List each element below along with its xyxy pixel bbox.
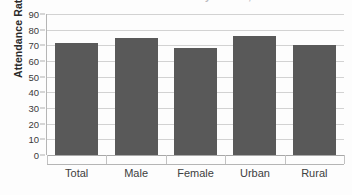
y-axis-tick-mark <box>40 76 45 77</box>
y-axis-tick-label: 10 <box>28 134 39 145</box>
bar-total[interactable] <box>55 43 98 155</box>
x-axis-label-male: Male <box>106 167 165 179</box>
y-axis-tick-label: 70 <box>28 40 39 51</box>
y-axis-tick-label: 60 <box>28 56 39 67</box>
chart-title-clipped: Attendance Rate in Primary School, 2010 <box>0 0 352 2</box>
x-axis-label-rural: Rural <box>285 167 344 179</box>
bar-rural[interactable] <box>293 45 336 155</box>
y-axis-tick-mark <box>40 123 45 124</box>
bar-slot <box>225 14 284 155</box>
bar-slot <box>285 14 344 155</box>
bar-female[interactable] <box>174 48 217 155</box>
category-tick-mark <box>47 155 48 164</box>
y-axis-tick-label: 90 <box>28 9 39 20</box>
y-axis-tick-label: 20 <box>28 118 39 129</box>
x-axis-label-female: Female <box>166 167 225 179</box>
bar-slot <box>47 14 106 155</box>
y-axis-tick-mark <box>40 29 45 30</box>
bar-chart: Attendance Rate in Primary School, 2010 … <box>0 0 352 195</box>
y-axis-tick-label: 0 <box>34 150 39 161</box>
y-axis-tick-mark <box>40 139 45 140</box>
y-axis-tick-mark <box>40 61 45 62</box>
x-axis-label-urban: Urban <box>225 167 284 179</box>
y-axis-tick-mark <box>40 14 45 15</box>
bar-series <box>47 14 344 155</box>
bar-slot <box>166 14 225 155</box>
x-axis-label-total: Total <box>47 167 106 179</box>
category-tick-mark <box>225 155 226 164</box>
y-axis-tick-label: 30 <box>28 103 39 114</box>
category-tick-mark <box>285 155 286 164</box>
plot-area <box>47 14 344 155</box>
y-axis-tick-mark <box>40 108 45 109</box>
y-axis-tick-labels: 9080706050403020100 <box>0 14 45 155</box>
x-axis-line <box>47 164 344 165</box>
bar-urban[interactable] <box>233 36 276 155</box>
y-axis-tick-label: 80 <box>28 24 39 35</box>
category-tick-mark <box>166 155 167 164</box>
category-tick-marks <box>47 155 344 164</box>
bar-male[interactable] <box>115 38 158 156</box>
y-axis-tick-label: 40 <box>28 87 39 98</box>
y-axis-tick-label: 50 <box>28 71 39 82</box>
bar-slot <box>106 14 165 155</box>
category-tick-mark <box>106 155 107 164</box>
x-axis-category-labels: TotalMaleFemaleUrbanRural <box>47 167 344 179</box>
y-axis-tick-mark <box>40 155 45 156</box>
y-axis-tick-mark <box>40 45 45 46</box>
y-axis-tick-mark <box>40 92 45 93</box>
category-tick-mark <box>344 155 345 164</box>
